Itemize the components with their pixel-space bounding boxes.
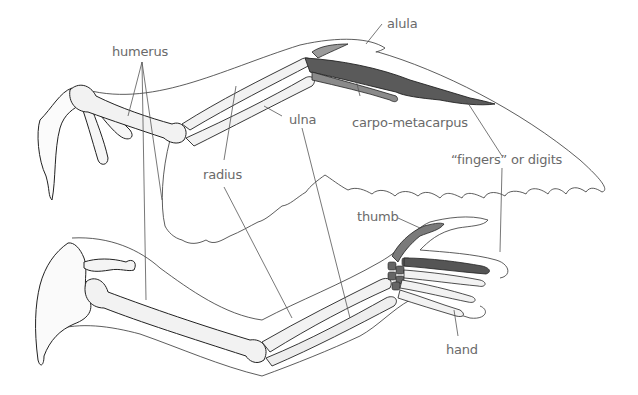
bird-wing: [38, 39, 605, 243]
label-humerus: humerus: [112, 45, 168, 58]
bird-alula-bone: [312, 44, 348, 58]
label-alula: alula: [387, 17, 417, 30]
wing-arm-comparison-diagram: humerus alula ulna carpo-metacarpus radi…: [0, 0, 638, 395]
label-carpo-metacarpus: carpo-metacarpus: [352, 116, 468, 129]
label-ulna: ulna: [289, 113, 316, 126]
label-thumb: thumb: [357, 210, 399, 223]
label-hand: hand: [446, 343, 478, 356]
label-fingers-or-digits: “fingers” or digits: [451, 153, 562, 166]
human-arm: [36, 217, 508, 376]
diagram-illustration: [0, 0, 638, 395]
human-scapula: [36, 243, 91, 365]
label-radius: radius: [203, 168, 242, 181]
human-thumb-bones: [392, 223, 444, 262]
human-humerus: [85, 279, 266, 363]
human-clavicle: [84, 259, 135, 271]
